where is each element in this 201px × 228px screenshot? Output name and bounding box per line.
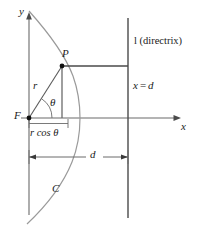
- d-dimension: [29, 149, 128, 165]
- focus-point-dot: [27, 116, 32, 121]
- y-axis-label: y: [19, 6, 24, 17]
- point-p-label: P: [62, 48, 69, 59]
- directrix-equation-rhs: d: [148, 79, 154, 91]
- focus-label: F: [14, 110, 21, 121]
- directrix-equation: x=d: [133, 80, 154, 91]
- x-axis-arrowhead: [174, 115, 182, 121]
- d-dimension-arrow-right: [121, 154, 128, 159]
- directrix-equation-relation: =: [138, 79, 148, 91]
- theta-label: θ: [50, 97, 55, 108]
- x-axis: [21, 115, 181, 121]
- radius-line: [29, 66, 62, 118]
- y-axis: [26, 12, 32, 215]
- directrix-label-text: l (directrix): [134, 35, 182, 46]
- projection-label: r cos θ: [30, 128, 59, 139]
- conic-focus-directrix-diagram: y x F P r θ C xl (directrix) x=d r cos θ…: [0, 0, 201, 228]
- focal-radius-segment: [29, 66, 62, 118]
- x-axis-label: x: [181, 121, 186, 132]
- d-dimension-arrow-left: [29, 154, 36, 159]
- curve-label: C: [52, 183, 59, 194]
- directrix-label: xl (directrix): [134, 36, 182, 47]
- radius-label: r: [33, 80, 37, 91]
- point-p-dot: [60, 64, 65, 69]
- distance-label: d: [90, 149, 96, 160]
